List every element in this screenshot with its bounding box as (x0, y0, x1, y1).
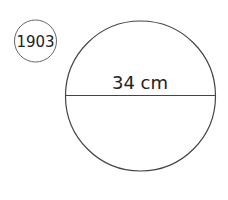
circle-figure: 34 cm (66, 21, 216, 171)
problem-number: 1903 (16, 33, 54, 51)
diameter-label: 34 cm (112, 72, 168, 93)
problem-number-badge: 1903 (15, 20, 57, 62)
diagram-canvas: 1903 34 cm (0, 0, 228, 200)
